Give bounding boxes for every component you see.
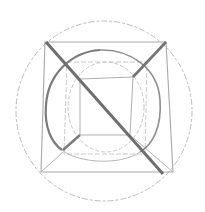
middle-circle-bottom bbox=[62, 150, 140, 161]
geometric-sketch bbox=[0, 0, 205, 212]
outer-square bbox=[41, 42, 173, 172]
connector-bl bbox=[41, 152, 63, 172]
inner-square bbox=[80, 77, 133, 135]
lower-left-diagonal bbox=[63, 135, 80, 150]
